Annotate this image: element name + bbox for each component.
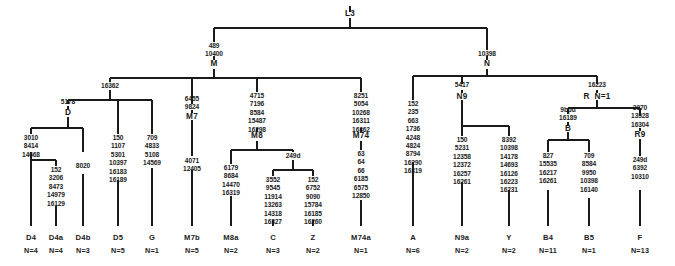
leaf-count-A: N=6 (406, 247, 420, 255)
mutations-Z: 152 6752 9090 15784 16185 16260 (304, 176, 322, 226)
mutations-N: 10398 (478, 50, 496, 58)
mutations-F: 249d 6392 10310 (631, 156, 649, 181)
mutations-M7b: 4071 12405 (183, 157, 201, 174)
leaf-count-B5: N=1 (582, 247, 596, 255)
leaf-count-N9a: N=2 (455, 247, 469, 255)
leaf-count-D4a: N=4 (49, 247, 63, 255)
phylogenetic-tree-diagram: 489 10400 M L3 10398 N 16362 5178 D 4715… (0, 0, 675, 266)
leaf-count-M8a: N=2 (224, 247, 238, 255)
mutations-D5: 150 1107 5301 10397 16183 16189 (109, 134, 127, 184)
leaf-label-F: F (638, 234, 643, 242)
tree-edges (0, 0, 675, 266)
leaf-count-Y: N=2 (502, 247, 516, 255)
mutations-A: 152 235 663 1736 4248 4824 8794 16290 16… (404, 100, 422, 176)
mutations-M8a: 6179 8684 14470 16319 (222, 164, 240, 198)
leaf-label-D4: D4 (26, 234, 36, 242)
leaf-count-G: N=1 (145, 247, 159, 255)
leaf-label-Y: Y (506, 234, 511, 242)
leaf-count-M7b: N=5 (185, 247, 199, 255)
mutations-Y: 8392 10398 14178 14693 16126 16223 16231 (500, 136, 518, 195)
leaf-label-B4: B4 (543, 234, 553, 242)
leaf-count-C: N=3 (266, 247, 280, 255)
leaf-label-Z: Z (311, 234, 316, 242)
mutations-R: 16223 (588, 81, 606, 89)
mutations-D: 5178 (61, 98, 75, 106)
leaf-label-M74a: M74a (351, 234, 371, 242)
mutations-M74a: 63 64 66 6185 6575 12850 (352, 150, 370, 200)
node-label-L3: L3 (345, 10, 355, 18)
leaf-label-N9a: N9a (455, 234, 470, 242)
leaf-label-G: G (149, 234, 155, 242)
leaf-count-M74a: N=1 (354, 247, 368, 255)
mutations-C: 3552 9545 11914 13263 14318 16327 (264, 176, 282, 226)
node-label-M7: M7 (186, 113, 198, 121)
leaf-count-Z: N=2 (306, 247, 320, 255)
mutations-M: 489 10400 (205, 42, 223, 59)
mutations-B4: 827 15535 16217 16261 (539, 152, 557, 186)
node-label-N9: N9 (457, 93, 468, 101)
leaf-label-D4b: D4b (76, 234, 91, 242)
mutations-B: 9bpd 16189 (559, 106, 577, 123)
mutations-D4a: 152 3206 8473 14979 16129 (47, 166, 65, 208)
mutations-249d-node: 249d (286, 152, 301, 160)
mutations-M7: 6455 9824 (185, 95, 199, 112)
node-label-M74: M74 (353, 132, 370, 140)
mutations-N9: 5417 (455, 81, 469, 89)
leaf-label-M7b: M7b (184, 234, 200, 242)
mutations-16362-node: 16362 (101, 82, 119, 90)
node-label-R: R N=1 (584, 93, 611, 101)
mutations-B5: 709 8584 9950 10398 16140 (580, 152, 598, 194)
leaf-label-M8a: M8a (223, 234, 238, 242)
leaf-count-D5: N=5 (111, 247, 125, 255)
mutations-D4: 3010 8414 14668 (22, 134, 40, 159)
mutations-N9a: 150 5231 12358 12372 16257 16261 (453, 136, 471, 186)
leaf-label-D5: D5 (113, 234, 123, 242)
node-label-B: B (565, 125, 571, 133)
leaf-label-C: C (270, 234, 276, 242)
node-label-M: M (210, 60, 217, 68)
leaf-count-B4: N=11 (539, 247, 557, 255)
leaf-count-D4b: N=3 (76, 247, 90, 255)
mutations-M8: 4715 7196 8584 15487 16298 (248, 92, 266, 134)
mutations-M74: 8251 5054 10268 16311 16362 (352, 92, 370, 134)
leaf-label-A: A (410, 234, 416, 242)
mutations-R9: 3970 13928 16304 (631, 104, 649, 129)
leaf-label-D4a: D4a (49, 234, 64, 242)
leaf-count-D4: N=4 (24, 247, 38, 255)
node-label-M8: M8 (251, 132, 263, 140)
mutations-G: 709 4833 5108 14569 (143, 134, 161, 168)
leaf-label-B5: B5 (584, 234, 594, 242)
mutations-D4b: 8020 (76, 162, 90, 170)
node-label-R9: R9 (635, 131, 646, 139)
node-label-N: N (484, 60, 490, 68)
node-label-D: D (65, 109, 71, 117)
leaf-count-F: N=13 (631, 247, 649, 255)
